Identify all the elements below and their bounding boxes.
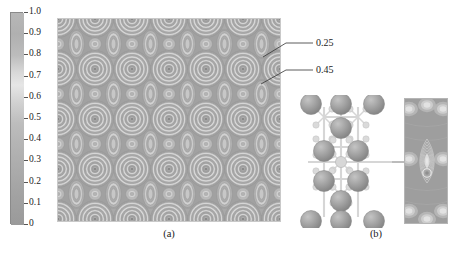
- colorbar-tick: [24, 97, 28, 98]
- colorbar-tick: [24, 224, 28, 225]
- colorbar-tick: [24, 139, 28, 140]
- colorbar-tick: [24, 182, 28, 183]
- colorbar-tick: [24, 33, 28, 34]
- colorbar-tick-label: 0.4: [29, 134, 41, 144]
- annotation-label-045: 0.45: [316, 65, 334, 75]
- colorbar-tick-label: 0: [29, 219, 34, 229]
- panel-a-caption: (a): [57, 228, 281, 239]
- colorbar-tick: [24, 54, 28, 55]
- crystal-structure-svg: [300, 95, 400, 228]
- colorbar-tick-label: 0.8: [29, 49, 41, 59]
- colorbar-tick-label: 0.7: [29, 71, 41, 81]
- panel-a-plot-area: [57, 18, 281, 222]
- colorbar-tick-label: 0.3: [29, 155, 41, 165]
- colorbar-tick-label: 0.5: [29, 113, 41, 123]
- colorbar-tick: [24, 160, 28, 161]
- panel-b-density-strip: [404, 98, 448, 224]
- crystal-structure-diagram: [300, 95, 400, 228]
- panel-b-structure: [300, 95, 452, 228]
- colorbar-tick-label: 0.1: [29, 198, 41, 208]
- colorbar-gradient: [10, 12, 23, 224]
- colorbar-tick: [24, 12, 28, 13]
- annotation-label-025: 0.25: [316, 38, 334, 48]
- colorbar-tick-label: 0.2: [29, 177, 41, 187]
- colorbar-tick: [24, 76, 28, 77]
- colorbar-gradient-svg: [11, 13, 24, 225]
- colorbar-tick: [24, 118, 28, 119]
- colorbar: 1.00.90.80.70.60.50.40.30.20.10: [10, 12, 56, 224]
- density-strip-svg: [405, 99, 448, 224]
- contour-map-svg: [58, 19, 281, 222]
- colorbar-tick: [24, 203, 28, 204]
- panel-b-caption: (b): [300, 228, 452, 239]
- colorbar-tick-label: 1.0: [29, 7, 41, 17]
- panel-a-contour-map: [57, 18, 281, 222]
- colorbar-tick-label: 0.6: [29, 92, 41, 102]
- colorbar-tick-label: 0.9: [29, 28, 41, 38]
